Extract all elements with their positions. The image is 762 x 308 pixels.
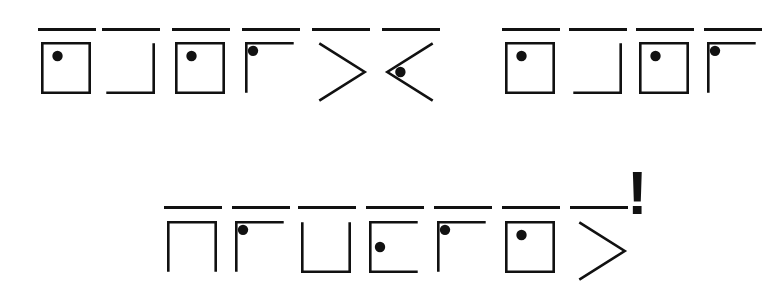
- overline-bar: [502, 28, 560, 31]
- symbol-corner-top-left-dot: [245, 42, 295, 94]
- symbol-square-dot: [41, 42, 91, 94]
- symbol-corner-top-left-dot: [707, 42, 757, 94]
- overline-bar: [636, 28, 694, 31]
- overline-bar: [298, 206, 356, 209]
- symbol-chevron-right: [318, 42, 366, 102]
- symbol-square-dot: [505, 221, 555, 273]
- overline-bar: [366, 206, 424, 209]
- symbol-corner-top-left-dot: [437, 221, 487, 273]
- exclamation-mark: !: [627, 162, 648, 224]
- overline-bar: [570, 206, 628, 209]
- overline-bar: [164, 206, 222, 209]
- symbol-bracket-left-dot: [369, 221, 419, 273]
- symbol-square-dot: [505, 42, 555, 94]
- overline-bar: [172, 28, 230, 31]
- overline-bar: [704, 28, 762, 31]
- overline-bar: [502, 206, 560, 209]
- symbol-chevron-left-dot: [386, 42, 434, 102]
- symbol-square-dot: [639, 42, 689, 94]
- overline-bar: [232, 206, 290, 209]
- symbol-chevron-right: [578, 221, 626, 281]
- symbol-corner-top-left-dot: [235, 221, 285, 273]
- symbol-arch-no-bottom: [167, 221, 217, 273]
- overline-bar: [312, 28, 370, 31]
- overline-bar: [382, 28, 440, 31]
- overline-bar: [434, 206, 492, 209]
- overline-bar: [38, 28, 96, 31]
- overline-bar: [102, 28, 160, 31]
- symbol-corner-bottom-right: [105, 42, 155, 94]
- overline-bar: [569, 28, 627, 31]
- symbol-cup-no-top: [301, 221, 351, 273]
- overline-bar: [242, 28, 300, 31]
- symbol-corner-bottom-right: [572, 42, 622, 94]
- symbol-square-dot: [175, 42, 225, 94]
